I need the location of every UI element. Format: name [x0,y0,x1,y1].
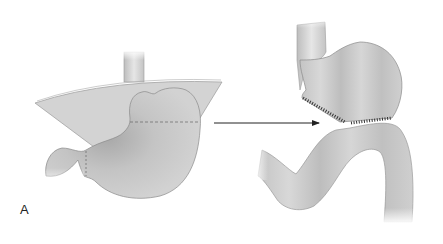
surgical-diagram [0,0,443,244]
right-view [254,16,416,224]
jejunal-limb [258,123,413,222]
panel-label: A [20,202,29,217]
left-view [35,50,222,198]
